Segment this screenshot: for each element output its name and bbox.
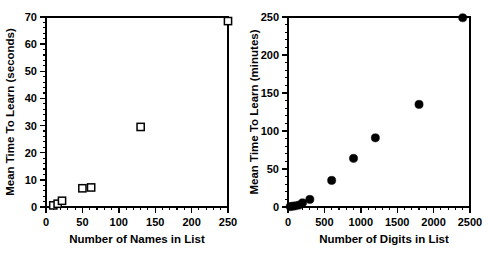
- right-chart-y-tick-label: 200: [261, 49, 279, 61]
- left-chart-y-tick-label: 50: [25, 65, 37, 77]
- right-chart-data-points: [286, 14, 467, 211]
- left-chart-x-tick-label: 50: [76, 216, 88, 228]
- left-chart-x-tick-label: 100: [110, 216, 128, 228]
- chart-panel-right: 05001000150020002500050100150200250 Numb…: [244, 0, 488, 254]
- data-point-marker: [349, 154, 357, 162]
- data-point-marker: [224, 17, 231, 24]
- data-point-marker: [306, 195, 314, 203]
- left-chart-x-axis-title: Number of Names in List: [69, 233, 205, 245]
- chart-panel-left: 050100150200250010203040506070 Number of…: [0, 0, 244, 254]
- left-chart-x-tick-label: 0: [43, 216, 49, 228]
- data-point-marker: [88, 184, 95, 191]
- data-point-marker: [371, 134, 379, 142]
- right-chart-ticks: [282, 17, 470, 213]
- right-chart-y-tick-label: 150: [261, 87, 279, 99]
- left-chart-y-tick-label: 20: [25, 147, 37, 159]
- data-point-marker: [58, 197, 65, 204]
- data-point-marker: [137, 123, 144, 130]
- right-chart-x-tick-label: 2000: [421, 216, 445, 228]
- left-chart-ticks: [40, 17, 228, 213]
- right-chart-axes: [288, 17, 470, 207]
- right-chart-y-tick-label: 100: [261, 125, 279, 137]
- right-chart-x-tick-label: 1000: [349, 216, 373, 228]
- left-chart-y-tick-label: 0: [31, 201, 37, 213]
- data-point-marker: [298, 199, 306, 207]
- left-chart-x-tick-label: 150: [146, 216, 164, 228]
- data-point-marker: [459, 14, 467, 22]
- left-chart-y-tick-label: 70: [25, 11, 37, 23]
- right-chart-x-tick-label: 0: [285, 216, 291, 228]
- right-chart-x-axis-title: Number of Digits in List: [319, 233, 449, 245]
- right-chart-x-tick-label: 1500: [385, 216, 409, 228]
- left-chart-tick-labels: 050100150200250010203040506070: [25, 11, 237, 228]
- left-chart-y-tick-label: 10: [25, 174, 37, 186]
- left-chart-y-tick-label: 60: [25, 38, 37, 50]
- data-point-marker: [328, 176, 336, 184]
- left-chart-y-tick-label: 30: [25, 120, 37, 132]
- right-chart-y-tick-label: 50: [267, 163, 279, 175]
- left-chart-data-points: [50, 17, 232, 209]
- right-chart-y-tick-label: 250: [261, 11, 279, 23]
- left-chart-x-tick-label: 250: [219, 216, 237, 228]
- data-point-marker: [79, 185, 86, 192]
- right-chart-x-tick-label: 500: [315, 216, 333, 228]
- right-chart-svg: 05001000150020002500050100150200250 Numb…: [244, 0, 488, 254]
- right-chart-y-axis-title: Mean Time To Learn (minutes): [248, 29, 260, 194]
- right-chart-x-tick-label: 2500: [458, 216, 482, 228]
- right-chart-y-tick-label: 0: [273, 201, 279, 213]
- left-chart-x-tick-label: 200: [182, 216, 200, 228]
- left-chart-y-axis-title: Mean Time To Learn (seconds): [4, 28, 16, 196]
- left-chart-y-tick-label: 40: [25, 92, 37, 104]
- left-chart-svg: 050100150200250010203040506070 Number of…: [0, 0, 244, 254]
- left-chart-axes: [46, 17, 228, 207]
- data-point-marker: [415, 100, 423, 108]
- right-chart-tick-labels: 05001000150020002500050100150200250: [261, 11, 483, 228]
- scatter-plot-figure: 050100150200250010203040506070 Number of…: [0, 0, 488, 254]
